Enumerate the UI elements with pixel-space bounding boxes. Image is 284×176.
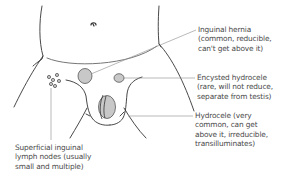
right-inner-leg <box>124 108 146 138</box>
lymph-node <box>57 79 60 82</box>
label-line: separate from testis) <box>197 92 273 101</box>
label-line: Encysted hydrocele <box>197 73 273 82</box>
label-line: small and multiple) <box>15 162 91 171</box>
right-groin-crease <box>110 77 142 125</box>
label-line: can't get above it) <box>198 44 271 53</box>
right-thigh-outline <box>159 44 194 111</box>
lymph-node <box>49 82 52 85</box>
left-torso-outline <box>33 6 43 66</box>
lower-abdomen-curve <box>47 46 157 64</box>
left-leg-notch <box>86 114 90 116</box>
lymph-node <box>55 73 58 76</box>
navel-icon <box>91 23 96 26</box>
leader-inguinal-hernia <box>91 30 196 74</box>
left-inner-leg <box>70 108 87 138</box>
label-line: (common, reducible, <box>198 34 271 43</box>
label-line: above it, irreducible, <box>195 130 268 139</box>
encysted-hydrocele-swelling <box>114 74 124 83</box>
inguinal-hernia-swelling <box>78 69 92 84</box>
label-encysted-hydrocele: Encysted hydrocele (rare, will not reduc… <box>197 73 273 101</box>
label-line: Superficial inguinal <box>15 143 91 152</box>
label-line: common, can get <box>195 120 268 129</box>
label-inguinal-hernia: Inguinal hernia (common, reducible, can'… <box>198 25 271 53</box>
label-line: lymph nodes (usually <box>15 152 91 161</box>
left-thigh-outline <box>14 56 43 107</box>
label-line: (rare, will not reduce, <box>197 82 273 91</box>
label-line: Inguinal hernia <box>198 25 271 34</box>
label-line: Hydrocele (very <box>195 111 268 120</box>
label-line: transilluminates) <box>195 139 268 148</box>
label-superficial-inguinal-lymph-nodes: Superficial inguinal lymph nodes (usuall… <box>15 143 91 171</box>
right-leg-notch <box>120 112 124 116</box>
lymph-node <box>51 78 54 81</box>
lymph-node <box>47 75 50 78</box>
right-torso-outline <box>158 6 161 47</box>
label-hydrocele: Hydrocele (very common, can get above it… <box>195 111 268 148</box>
lymph-node <box>53 84 56 87</box>
